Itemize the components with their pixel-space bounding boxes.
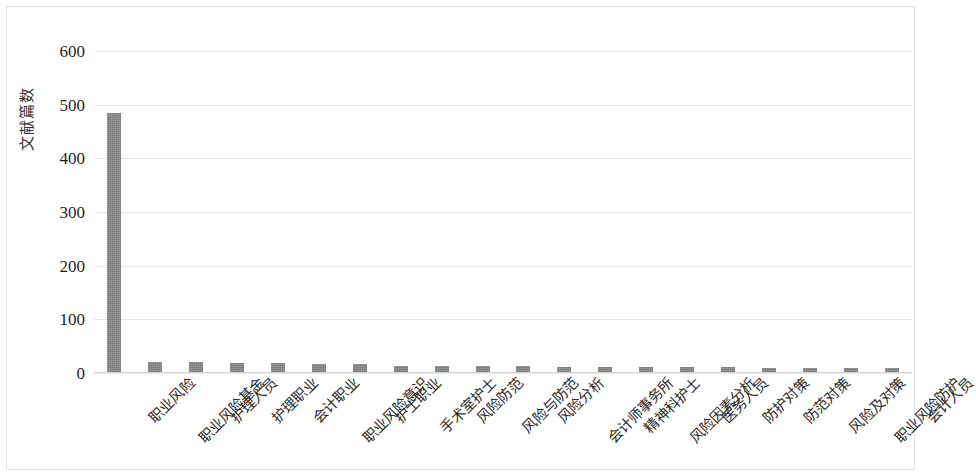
x-axis-baseline xyxy=(94,372,912,373)
x-tick-label: 职业风险 xyxy=(147,375,199,427)
bar[interactable] xyxy=(107,113,121,373)
y-tick-label: 400 xyxy=(60,150,86,167)
plot-area: 0100200300400500600 xyxy=(94,51,912,373)
x-axis-tick-labels: 职业风险职业风险基金护理人员护理职业会计职业职业风险意识护士职业手术室护士风险防… xyxy=(94,375,912,476)
y-tick-label: 600 xyxy=(60,43,86,60)
bar-chart-figure: 文献篇数 0100200300400500600 职业风险职业风险基金护理人员护… xyxy=(6,6,915,470)
y-axis-title: 文献篇数 xyxy=(15,59,37,179)
y-tick-label: 300 xyxy=(60,204,86,221)
y-tick-label: 500 xyxy=(60,96,86,113)
bar-series xyxy=(94,51,912,373)
y-tick-label: 0 xyxy=(77,365,86,382)
y-tick-label: 100 xyxy=(60,311,86,328)
plot-inner: 0100200300400500600 xyxy=(94,51,912,373)
gridline xyxy=(94,373,912,374)
y-tick-label: 200 xyxy=(60,257,86,274)
